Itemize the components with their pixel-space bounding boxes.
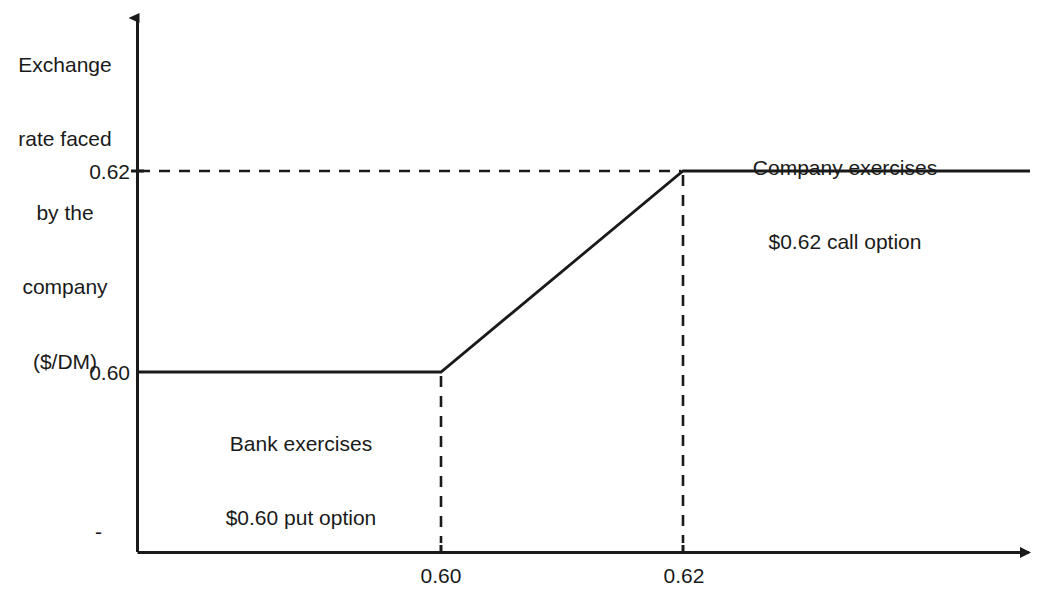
y-axis-tick-label-dash: - — [86, 520, 102, 545]
payoff-chart: Exchange rate faced by the company ($/DM… — [0, 0, 1046, 607]
put-option-annotation-line-1: Bank exercises — [162, 432, 440, 457]
y-axis-tick-label-060: 0.60 — [72, 361, 130, 386]
y-axis-title-line-1: Exchange — [0, 53, 130, 78]
x-axis-title: Spot exchange rate ($/DM) — [800, 558, 1022, 607]
y-axis-title-line-2: rate faced — [0, 127, 130, 152]
call-option-annotation-line-1: Company exercises — [706, 156, 984, 181]
y-axis-title-line-4: company — [0, 275, 130, 300]
put-option-annotation: Bank exercises $0.60 put option — [162, 382, 440, 580]
call-option-annotation: Company exercises $0.62 call option — [706, 106, 984, 304]
x-axis-tick-label-062: 0.62 — [653, 564, 715, 589]
call-option-annotation-line-2: $0.62 call option — [706, 230, 984, 255]
put-option-annotation-line-2: $0.60 put option — [162, 506, 440, 531]
y-axis-title-line-3: by the — [0, 201, 130, 226]
y-axis-tick-label-062: 0.62 — [72, 160, 130, 185]
